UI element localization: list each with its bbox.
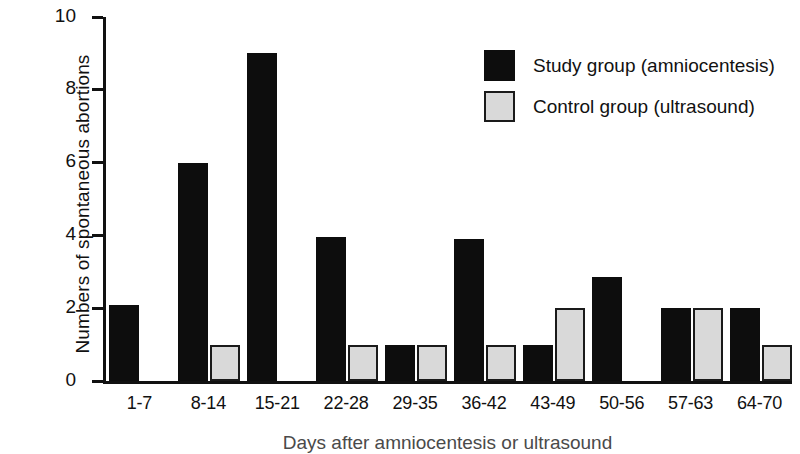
bar-study-64-70 <box>730 308 760 381</box>
x-axis-title: Days after amniocentesis or ultrasound <box>103 432 792 454</box>
x-tick-label-15-21: 15-21 <box>255 393 300 414</box>
y-tick-10: 10 <box>92 16 103 19</box>
bar-study-1-7 <box>109 305 139 381</box>
x-tick-label-8-14: 8-14 <box>191 393 226 414</box>
bar-study-36-42 <box>454 239 484 381</box>
bar-study-8-14 <box>178 163 208 381</box>
y-tick-label: 8 <box>65 77 76 99</box>
y-tick-label: 0 <box>65 368 76 390</box>
bar-study-29-35 <box>385 345 415 381</box>
y-axis-title: Numbers of spontaneous abortions <box>72 9 94 399</box>
bar-study-22-28 <box>316 237 346 381</box>
x-tick-label-29-35: 29-35 <box>393 393 438 414</box>
x-tick-label-36-42: 36-42 <box>461 393 506 414</box>
bar-study-50-56 <box>592 277 622 381</box>
y-tick-2: 2 <box>92 307 103 310</box>
legend-item-control: Control group (ultrasound) <box>484 86 775 127</box>
legend-swatch-study-icon <box>484 50 515 81</box>
x-tick-label-50-56: 50-56 <box>599 393 644 414</box>
bar-control-36-42 <box>486 345 516 381</box>
y-tick-8: 8 <box>92 88 103 91</box>
legend-item-study: Study group (amniocentesis) <box>484 45 775 86</box>
x-tick-label-64-70: 64-70 <box>737 393 782 414</box>
x-axis-spine <box>103 381 792 384</box>
bar-control-8-14 <box>210 345 240 381</box>
legend-swatch-control-icon <box>484 91 515 122</box>
x-tick-label-22-28: 22-28 <box>324 393 369 414</box>
legend-label: Control group (ultrasound) <box>533 96 755 118</box>
bar-control-43-49 <box>555 308 585 381</box>
x-tick-label-43-49: 43-49 <box>530 393 575 414</box>
x-tick-label-57-63: 57-63 <box>668 393 713 414</box>
bar-study-57-63 <box>661 308 691 381</box>
bar-study-43-49 <box>523 345 553 381</box>
chart-legend: Study group (amniocentesis)Control group… <box>484 45 775 127</box>
bar-control-64-70 <box>762 345 792 381</box>
y-axis-spine <box>103 17 106 381</box>
y-tick-label: 6 <box>65 150 76 172</box>
bar-control-22-28 <box>348 345 378 381</box>
legend-label: Study group (amniocentesis) <box>533 55 775 77</box>
x-tick-label-1-7: 1-7 <box>127 393 152 414</box>
y-tick-6: 6 <box>92 161 103 164</box>
y-tick-0: 0 <box>92 380 103 383</box>
y-tick-label: 2 <box>65 295 76 317</box>
bar-study-15-21 <box>247 53 277 381</box>
bar-control-29-35 <box>417 345 447 381</box>
y-tick-label: 10 <box>55 4 76 26</box>
y-tick-4: 4 <box>92 234 103 237</box>
y-tick-label: 4 <box>65 222 76 244</box>
bar-control-57-63 <box>693 308 723 381</box>
